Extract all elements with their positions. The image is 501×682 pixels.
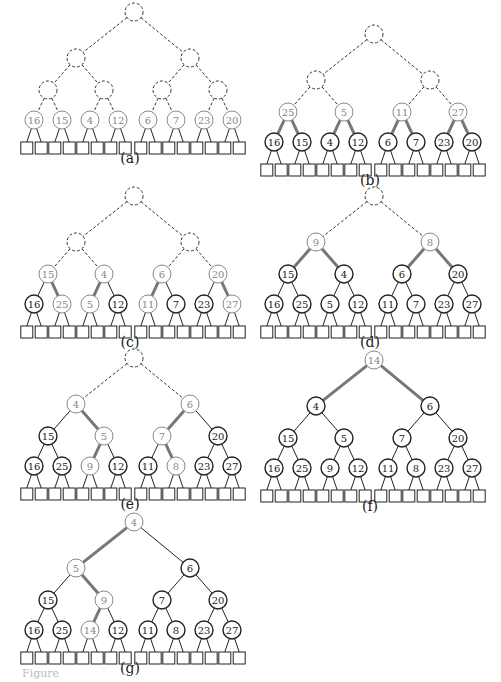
tree-edge — [294, 87, 310, 105]
leaf-edge — [197, 128, 202, 142]
leaf-edge — [36, 474, 41, 488]
node-key: 20 — [452, 269, 465, 280]
panel-label: (f) — [254, 498, 486, 514]
leaf-edge — [111, 128, 116, 142]
leaf-edge — [295, 476, 300, 490]
tree-edge — [406, 120, 412, 134]
node-key: 11 — [382, 299, 395, 310]
node-key: 15 — [296, 137, 309, 148]
leaf-edge — [225, 312, 230, 326]
node-key: 9 — [327, 463, 333, 474]
heap-tree: 456159720162514121182327 — [14, 514, 246, 664]
node-key: 14 — [368, 355, 381, 366]
leaf-edge — [323, 150, 328, 164]
tree-node — [125, 187, 143, 205]
node-key: 20 — [212, 595, 225, 606]
node-key: 7 — [173, 299, 179, 310]
leaf-edge — [120, 312, 125, 326]
node-key: 16 — [28, 299, 41, 310]
node-key: 15 — [282, 269, 295, 280]
leaf-edge — [323, 476, 328, 490]
leaf-edge — [178, 638, 183, 652]
tree-edge — [408, 249, 424, 267]
tree-edge — [141, 202, 183, 237]
tree-edge — [322, 87, 338, 105]
node-key: 9 — [313, 237, 319, 248]
node-key: 25 — [56, 625, 69, 636]
node-key: 20 — [466, 137, 479, 148]
leaf-edge — [169, 312, 174, 326]
node-key: 16 — [28, 115, 41, 126]
node-key: 25 — [56, 461, 69, 472]
tree-edge — [83, 18, 127, 53]
leaf-edge — [437, 476, 442, 490]
heap-tree: 25511271615412672320 — [254, 26, 486, 176]
tree-edge — [83, 528, 127, 563]
tree-edge — [196, 575, 212, 593]
tree-edge — [168, 411, 184, 429]
leaf-edge — [150, 312, 155, 326]
tree-edge — [108, 282, 114, 296]
leaf-edge — [169, 474, 174, 488]
tree-panel-f: 144615572016259121182327(f) — [254, 352, 486, 520]
node-key: 15 — [42, 595, 55, 606]
tree-edge — [392, 120, 398, 134]
node-key: 7 — [413, 299, 419, 310]
tree-edge — [166, 608, 172, 622]
tree-edge — [52, 608, 58, 622]
leaf-edge — [197, 474, 202, 488]
tree-node — [365, 25, 383, 43]
node-key: 12 — [352, 137, 365, 148]
leaf-edge — [390, 312, 395, 326]
tree-edge — [168, 249, 184, 267]
leaf-edge — [83, 474, 88, 488]
tree-edge — [462, 282, 468, 296]
tree-node — [39, 81, 57, 99]
node-key: 11 — [142, 461, 155, 472]
leaf-edge — [446, 312, 451, 326]
leaf-edge — [304, 476, 309, 490]
node-key: 27 — [466, 463, 479, 474]
node-key: 15 — [282, 433, 295, 444]
leaf-edge — [169, 638, 174, 652]
leaf-edge — [55, 638, 60, 652]
tree-edge — [152, 608, 158, 622]
node-key: 27 — [226, 625, 239, 636]
leaf-edge — [360, 150, 365, 164]
tree-node — [181, 49, 199, 67]
node-key: 11 — [382, 463, 395, 474]
node-key: 12 — [352, 463, 365, 474]
leaf-edge — [351, 312, 356, 326]
leaf-edge — [276, 150, 281, 164]
leaf-edge — [351, 476, 356, 490]
tree-edge — [52, 444, 58, 458]
leaf-edge — [409, 476, 414, 490]
tree-edge — [392, 282, 398, 296]
leaf-edge — [418, 312, 423, 326]
node-key: 4 — [87, 115, 93, 126]
node-key: 23 — [438, 137, 451, 148]
leaf-edge — [64, 128, 69, 142]
leaf-edge — [36, 312, 41, 326]
node-key: 12 — [112, 115, 125, 126]
tree-edge — [462, 446, 468, 460]
tree-edge — [141, 364, 183, 399]
tree-edge — [152, 282, 158, 296]
node-key: 11 — [142, 299, 155, 310]
heap-tree: 4615572016259121182327 — [14, 350, 246, 500]
panel-label: (c) — [14, 334, 246, 350]
leaf-edge — [120, 474, 125, 488]
leaf-edge — [267, 476, 272, 490]
node-key: 8 — [413, 463, 419, 474]
leaf-edge — [150, 128, 155, 142]
tree-edge — [322, 413, 338, 431]
tree-node — [421, 71, 439, 89]
tree-edge — [208, 282, 214, 296]
leaf-edge — [304, 150, 309, 164]
tree-node — [181, 233, 199, 251]
tree-edge — [82, 65, 98, 83]
leaf-edge — [465, 476, 470, 490]
leaf-edge — [83, 312, 88, 326]
node-key: 12 — [112, 461, 125, 472]
node-key: 16 — [268, 137, 281, 148]
